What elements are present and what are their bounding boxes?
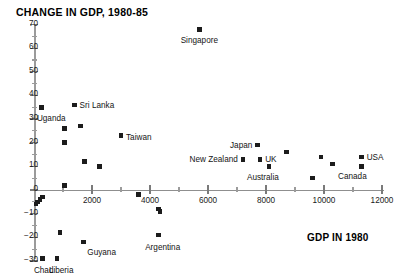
data-point [136,192,141,197]
y-axis-tick-group: 70 [0,20,38,30]
y-axis-tick-group: 40 [0,90,38,100]
y-axis-tick-group: 30 [0,114,38,124]
data-point [81,240,86,245]
x-axis-minor-tick [294,187,295,192]
x-axis-tick-label: 12000 [357,196,407,205]
data-point [58,230,63,235]
data-point [78,124,83,129]
y-axis-tick-group: 20 [0,138,38,148]
x-axis-minor-tick [236,187,237,192]
y-axis-tick-group: −10 [0,209,38,219]
data-point-label: Sri Lanka [80,100,115,109]
data-point [319,155,324,160]
y-axis-tick-label: 20 [14,138,38,146]
data-point [55,256,60,261]
data-point [241,157,246,162]
y-axis-minor-tick [32,59,37,60]
data-point [258,157,263,162]
y-axis-tick-group: 0 [0,185,38,195]
x-axis-tick [91,185,92,194]
data-point-label: Uganda [37,114,66,123]
y-axis-tick-label: 60 [14,43,38,51]
x-axis-tick [323,185,324,194]
x-axis-tick-label: 4000 [125,196,175,205]
y-axis-minor-tick [32,107,37,108]
x-axis-minor-tick [62,187,63,192]
data-point [284,150,289,155]
y-axis-tick-label: 0 [14,185,38,193]
x-axis-minor-tick [178,187,179,192]
y-axis-minor-tick [32,36,37,37]
x-axis-tick-label: 2000 [67,196,117,205]
x-axis-line [34,190,384,191]
data-point-label: Singapore [181,36,218,45]
y-axis-tick-group: 50 [0,67,38,77]
y-axis-tick-label: 40 [14,90,38,98]
y-axis-tick-label: 30 [14,114,38,122]
y-axis-tick-group: −20 [0,232,38,242]
data-point [310,176,315,181]
y-axis-minor-tick [32,130,37,131]
data-point-label: New Zealand [190,155,238,164]
y-axis-tick-label: −10 [14,209,38,217]
y-axis-tick-group: 10 [0,161,38,171]
x-axis-tick-label: 8000 [241,196,291,205]
data-point [359,164,364,169]
y-axis-minor-tick [32,178,37,179]
y-axis-minor-tick [32,225,37,226]
data-point [158,209,163,214]
data-point-label: USA [367,152,384,161]
y-axis-tick-label: −30 [14,256,38,264]
y-axis-minor-tick [32,249,37,250]
data-point-label: Guyana [87,248,116,257]
data-point [97,164,102,169]
x-axis-minor-tick [352,187,353,192]
data-point-label: Argentina [145,242,180,251]
data-point [255,143,260,148]
data-point [62,140,67,145]
gdp-scatter-chart: CHANGE IN GDP, 1980-85 706050403020100−1… [0,0,408,275]
x-axis-tick [265,185,266,194]
data-point [39,105,44,110]
data-point-label: Taiwan [126,132,152,141]
data-point [359,155,364,160]
y-axis-tick-group: −30 [0,256,38,266]
x-axis-tick-label: 6000 [183,196,233,205]
x-axis-tick [207,185,208,194]
data-point [72,103,77,108]
data-point-label: Liberia [49,265,74,274]
data-point [34,202,39,207]
x-axis-tick [381,185,382,194]
y-axis-tick-label: −20 [14,232,38,240]
x-axis-minor-tick [120,187,121,192]
data-point [82,159,87,164]
data-point [40,256,45,261]
y-axis-tick-label: 10 [14,161,38,169]
data-point-label: Australia [247,173,279,182]
data-point [330,162,335,167]
y-axis-tick-label: 50 [14,67,38,75]
data-point-label: UK [265,155,276,164]
data-point [156,233,161,238]
data-point [62,126,67,131]
data-point-label: Japan [230,141,252,150]
y-axis-minor-tick [32,83,37,84]
x-axis-tick-label: 10000 [299,196,349,205]
x-axis-label: GDP IN 1980 [307,232,369,243]
y-axis-minor-tick [32,154,37,155]
x-axis-tick [149,185,150,194]
data-point [197,27,202,32]
y-axis-tick-group: 60 [0,43,38,53]
data-point-label: Canada [338,172,367,181]
data-point [62,183,67,188]
data-point [119,133,124,138]
data-point [267,164,272,169]
y-axis-tick-label: 70 [14,20,38,28]
